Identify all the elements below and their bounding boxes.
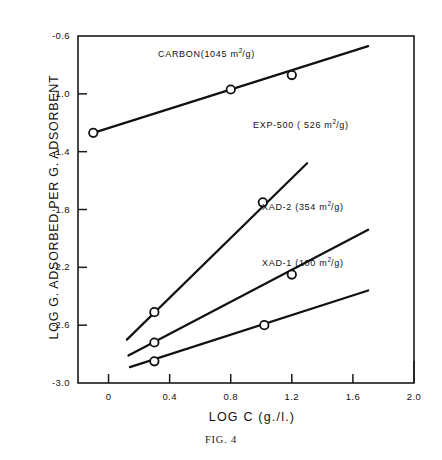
- y-tick-label: -1.4: [30, 146, 70, 157]
- y-tick-label: -0.6: [30, 30, 70, 41]
- x-tick-label: 0.4: [150, 391, 190, 402]
- series-xad-2: [128, 230, 368, 356]
- x-axis-label: LOG C (g./l.): [0, 410, 442, 424]
- series-label-carbon: CARBON(1045 m2/g): [158, 47, 255, 59]
- y-tick-label: -1.0: [30, 88, 70, 99]
- y-tick-label: -2.2: [30, 261, 70, 272]
- data-point-marker: [89, 129, 97, 137]
- x-tick-label: 0: [89, 391, 129, 402]
- data-point-marker: [150, 308, 158, 316]
- series-exp-500: [127, 163, 307, 339]
- data-point-marker: [227, 85, 235, 93]
- x-tick-label: 1.2: [272, 391, 312, 402]
- plot-frame: [78, 36, 414, 383]
- x-axis-label-text: LOG C (g./l.): [209, 410, 295, 424]
- y-tick-label: -2.6: [30, 319, 70, 330]
- data-point-marker: [260, 321, 268, 329]
- figure-container: LOG G. ADSORBED PER G. ADSORBENT LOG C (…: [0, 0, 442, 460]
- y-tick-label: -3.0: [30, 377, 70, 388]
- data-point-marker: [150, 357, 158, 365]
- data-point-marker: [288, 71, 296, 79]
- series-label-xad-1: XAD-1 (100 m2/g): [262, 256, 344, 268]
- x-tick-label: 1.6: [333, 391, 373, 402]
- figure-caption: FIG. 4: [0, 434, 442, 445]
- data-point-marker: [150, 338, 158, 346]
- data-point-marker: [288, 270, 296, 278]
- series-line: [128, 230, 368, 356]
- x-tick-label: 0.8: [211, 391, 251, 402]
- series-label-exp-500: EXP-500 ( 526 m2/g): [253, 118, 349, 130]
- x-tick-label: 2.0: [394, 391, 434, 402]
- y-tick-label: -1.8: [30, 204, 70, 215]
- series-label-xad-2: XAD-2 (354 m2/g): [262, 200, 344, 212]
